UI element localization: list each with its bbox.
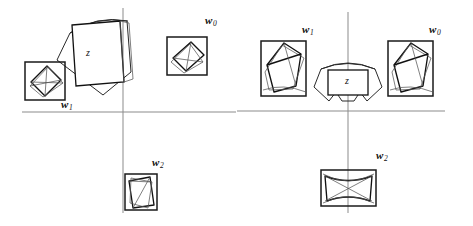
w0-thumbnail-right (388, 41, 433, 96)
w1-chord2-left (45, 66, 47, 96)
panel-before-alignment: z w0 w1 w2 (0, 0, 236, 226)
w0-thumbnail-left (167, 37, 207, 75)
figure-canvas: z w0 w1 w2 (0, 0, 473, 226)
panel-left-graphics (0, 0, 236, 226)
w1-label-left: w1 (61, 99, 73, 111)
w1-thumbnail-right (261, 41, 306, 96)
w1-label-right: w1 (302, 24, 314, 36)
z-label-left: z (86, 48, 90, 58)
panel-after-alignment: z w1 w0 w2 (236, 0, 473, 226)
z-inner-rect (72, 21, 124, 86)
z-label-right: z (345, 76, 349, 86)
w2-label-right: w2 (376, 150, 388, 162)
w2-thumbnail-left (125, 174, 157, 210)
w0-label-right: w0 (429, 24, 441, 36)
w2-label-left: w2 (152, 157, 164, 169)
w0-label-left: w0 (205, 15, 217, 27)
w1-thumbnail-left (25, 62, 65, 100)
z-shape-left (57, 20, 133, 96)
